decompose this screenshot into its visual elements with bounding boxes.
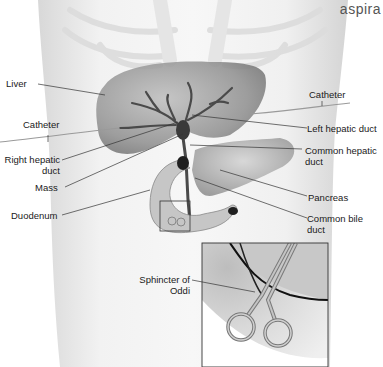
label-right-hepatic-duct-line2: duct — [2, 165, 60, 176]
label-mass: Mass — [35, 182, 58, 193]
label-left-hepatic-duct: Left hepatic duct — [307, 123, 377, 134]
label-common-hepatic-duct-line2: duct — [305, 156, 377, 167]
label-right-hepatic-duct: Right hepatic duct — [2, 154, 60, 176]
biliary-anatomy-diagram: aspira Liver Catheter Catheter Right hep… — [0, 0, 383, 367]
label-catheter-left: Catheter — [23, 119, 59, 130]
label-common-hepatic-duct: Common hepatic duct — [305, 145, 377, 167]
label-common-bile-duct: Common bile duct — [307, 213, 363, 235]
label-sphincter-line1: Sphincter of — [130, 274, 190, 285]
label-sphincter-line2: Oddi — [130, 285, 190, 296]
inset-magnified-view — [202, 243, 328, 367]
label-sphincter-of-oddi: Sphincter of Oddi — [130, 274, 190, 296]
label-common-bile-duct-line1: Common bile — [307, 213, 363, 224]
label-common-hepatic-duct-line1: Common hepatic — [305, 145, 377, 156]
label-right-hepatic-duct-line1: Right hepatic — [2, 154, 60, 165]
mass-shape — [176, 120, 190, 140]
label-duodenum: Duodenum — [11, 210, 57, 221]
corner-caption-fragment: aspira — [340, 1, 381, 17]
label-liver: Liver — [6, 78, 27, 89]
label-pancreas: Pancreas — [308, 192, 348, 203]
label-common-bile-duct-line2: duct — [307, 224, 363, 235]
label-catheter-right: Catheter — [309, 89, 345, 100]
